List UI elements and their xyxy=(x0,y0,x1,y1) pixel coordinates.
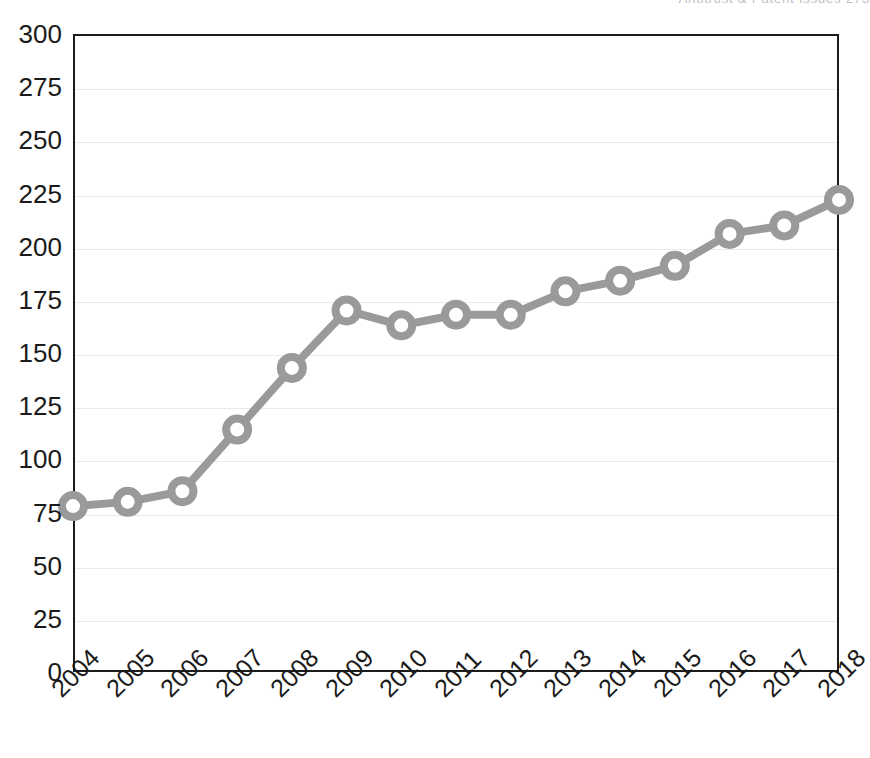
line-chart-figure: Antitrust & Patent Issues 273 0255075100… xyxy=(0,0,870,758)
x-tick-label: 2004 xyxy=(47,645,104,702)
x-tick-label: 2012 xyxy=(485,645,542,702)
x-tick-label: 2006 xyxy=(156,645,213,702)
x-tick-label: 2007 xyxy=(211,645,268,702)
x-tick-label: 2011 xyxy=(430,646,486,702)
x-tick-label: 2008 xyxy=(266,645,323,702)
x-tick-label: 2005 xyxy=(102,645,159,702)
x-tick-label: 2014 xyxy=(594,645,651,702)
x-tick-label: 2009 xyxy=(321,645,378,702)
x-tick-label: 2015 xyxy=(649,645,706,702)
x-tick-label: 2017 xyxy=(758,645,815,702)
x-tick-label: 2016 xyxy=(704,645,761,702)
x-tick-label: 2018 xyxy=(813,645,870,702)
x-axis-tick-labels: 2004200520062007200820092010201120122013… xyxy=(0,0,870,758)
x-tick-label: 2010 xyxy=(375,645,432,702)
x-tick-label: 2013 xyxy=(539,645,596,702)
